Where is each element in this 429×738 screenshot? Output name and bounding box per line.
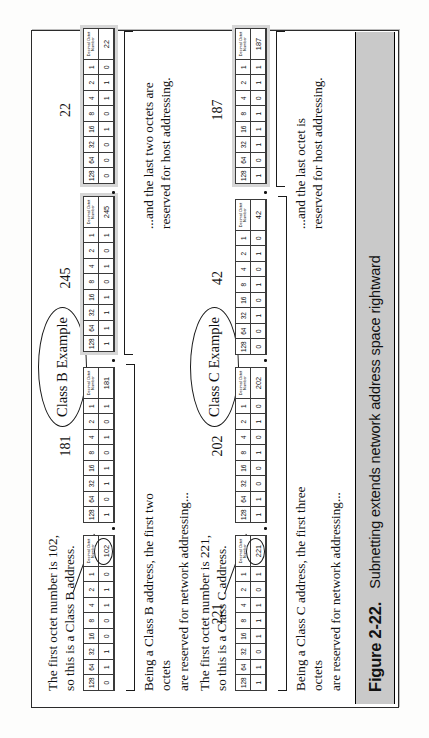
bit-header: 16 — [84, 121, 99, 137]
class-c-example: The first octet number is 221, so this i… — [188, 39, 338, 699]
decimal-octet-value: 202 — [251, 368, 266, 398]
bit-header: 8 — [84, 445, 99, 461]
bit-value: 0 — [251, 460, 266, 476]
decimal-octet-value: 221 — [251, 536, 266, 566]
class-b-network-note: Being a Class B address, the first two o… — [140, 476, 192, 691]
bit-header: 128 — [236, 168, 251, 184]
bit-header: 1 — [236, 398, 251, 414]
bit-header: 32 — [84, 137, 99, 153]
class-b-octet-3-grid: 128 64 32 16 8 4 2 1 Decimal Octet Numbe… — [83, 196, 115, 352]
decimal-octet-header: Decimal Octet Number — [236, 368, 251, 398]
bit-header: 128 — [84, 168, 99, 184]
bit-header: 4 — [84, 429, 99, 445]
bit-value: 1 — [251, 246, 266, 262]
bit-value: 0 — [99, 675, 114, 691]
bit-header: 128 — [84, 675, 99, 691]
bit-value: 0 — [99, 566, 114, 582]
bit-value: 0 — [251, 323, 266, 339]
bit-value: 1 — [99, 227, 114, 243]
bit-value: 1 — [251, 59, 266, 75]
bit-header: 8 — [84, 106, 99, 122]
bit-value: 1 — [251, 613, 266, 629]
bit-value: 1 — [251, 659, 266, 675]
bit-header: 16 — [84, 460, 99, 476]
bit-value: 1 — [251, 277, 266, 293]
bit-header: 2 — [84, 414, 99, 430]
bit-header: 4 — [236, 90, 251, 106]
bit-header: 8 — [236, 613, 251, 629]
bit-value: 1 — [99, 336, 114, 352]
bit-header: 32 — [84, 476, 99, 492]
class-c-octet-4: 128 64 32 16 8 4 2 1 Decimal Octet Numbe… — [232, 25, 270, 187]
class-c-octet-2-grid: 128 64 32 16 8 4 2 1 Decimal Octet Numbe… — [236, 368, 266, 522]
bit-value: 1 — [251, 121, 266, 137]
class-c-octet-2: 128 64 32 16 8 4 2 1 Decimal Octet Numbe… — [235, 367, 267, 523]
bit-header: 64 — [236, 491, 251, 507]
bit-value: 1 — [99, 398, 114, 414]
bit-header: 1 — [236, 59, 251, 75]
rotated-page: The first octet number is 102, so this i… — [31, 30, 399, 708]
bit-value: 0 — [251, 429, 266, 445]
bit-header: 16 — [236, 628, 251, 644]
bit-value: 1 — [251, 628, 266, 644]
bit-value: 1 — [99, 320, 114, 336]
bit-value: 1 — [99, 507, 114, 523]
bit-value: 1 — [251, 106, 266, 122]
class-b-octet-2-label: 181 — [58, 369, 74, 523]
bit-value: 0 — [251, 292, 266, 308]
bit-header: 128 — [84, 336, 99, 352]
bit-value: 1 — [99, 659, 114, 675]
bit-value: 1 — [251, 308, 266, 324]
bit-header: 16 — [84, 628, 99, 644]
decimal-octet-value: 22 — [99, 29, 114, 59]
octet-separator-dot — [112, 359, 115, 362]
class-c-octet-1-label: 221 — [210, 537, 226, 691]
bit-header: 32 — [236, 137, 251, 153]
class-c-octet-2-label: 202 — [210, 369, 226, 523]
bit-header: 32 — [236, 644, 251, 660]
class-c-octet-1: 128 64 32 16 8 4 2 1 Decimal Octet Numbe… — [235, 535, 267, 691]
bit-value: 1 — [251, 597, 266, 613]
class-b-octet-3: 128 64 32 16 8 4 2 1 Decimal Octet Numbe… — [80, 193, 118, 355]
class-c-octet-4-label: 187 — [210, 33, 226, 187]
bit-value: 1 — [99, 258, 114, 274]
class-b-host-bracket — [124, 31, 133, 355]
decimal-octet-value: 181 — [99, 368, 114, 398]
bit-value: 0 — [251, 230, 266, 246]
class-b-example: The first octet number is 102, so this i… — [36, 39, 186, 699]
bit-value: 1 — [99, 121, 114, 137]
figure-number: Figure 2-22. — [365, 602, 384, 692]
bit-value: 0 — [251, 476, 266, 492]
bit-header: 16 — [236, 460, 251, 476]
decimal-octet-value: 245 — [99, 197, 114, 227]
bit-value: 0 — [99, 243, 114, 259]
class-c-octet-3-label: 42 — [210, 201, 226, 355]
octet-separator-dot — [112, 191, 115, 194]
class-b-octet-2-grid: 128 64 32 16 8 4 2 1 Decimal Octet Numbe… — [84, 368, 114, 522]
bit-header: 64 — [236, 152, 251, 168]
bit-value: 1 — [99, 90, 114, 106]
bit-value: 0 — [99, 168, 114, 184]
bit-value: 0 — [99, 613, 114, 629]
page-frame: The first octet number is 102, so this i… — [31, 30, 399, 708]
bit-header: 64 — [84, 152, 99, 168]
decimal-octet-header: Decimal Octet Number — [236, 29, 251, 59]
bit-value: 1 — [99, 597, 114, 613]
bit-value: 1 — [99, 75, 114, 91]
bit-value: 1 — [251, 491, 266, 507]
figure-caption-bar: Figure 2-22. Subnetting extends network … — [355, 32, 395, 704]
bit-value: 1 — [99, 305, 114, 321]
bit-header: 8 — [236, 106, 251, 122]
bit-header: 128 — [84, 507, 99, 523]
bit-value: 1 — [251, 168, 266, 184]
bit-value: 0 — [251, 90, 266, 106]
class-b-octet-2: 128 64 32 16 8 4 2 1 Decimal Octet Numbe… — [83, 367, 115, 523]
bit-header: 8 — [84, 274, 99, 290]
decimal-octet-header: Decimal Octet Number — [84, 29, 99, 59]
bit-value: 0 — [251, 339, 266, 355]
bit-header: 64 — [84, 320, 99, 336]
bit-header: 2 — [236, 75, 251, 91]
bit-header: 16 — [84, 289, 99, 305]
class-c-host-note: ...and the last octet is reserved for ho… — [292, 39, 327, 229]
class-b-octet-1-grid: 128 64 32 16 8 4 2 1 Decimal Octet Numbe… — [84, 536, 114, 690]
